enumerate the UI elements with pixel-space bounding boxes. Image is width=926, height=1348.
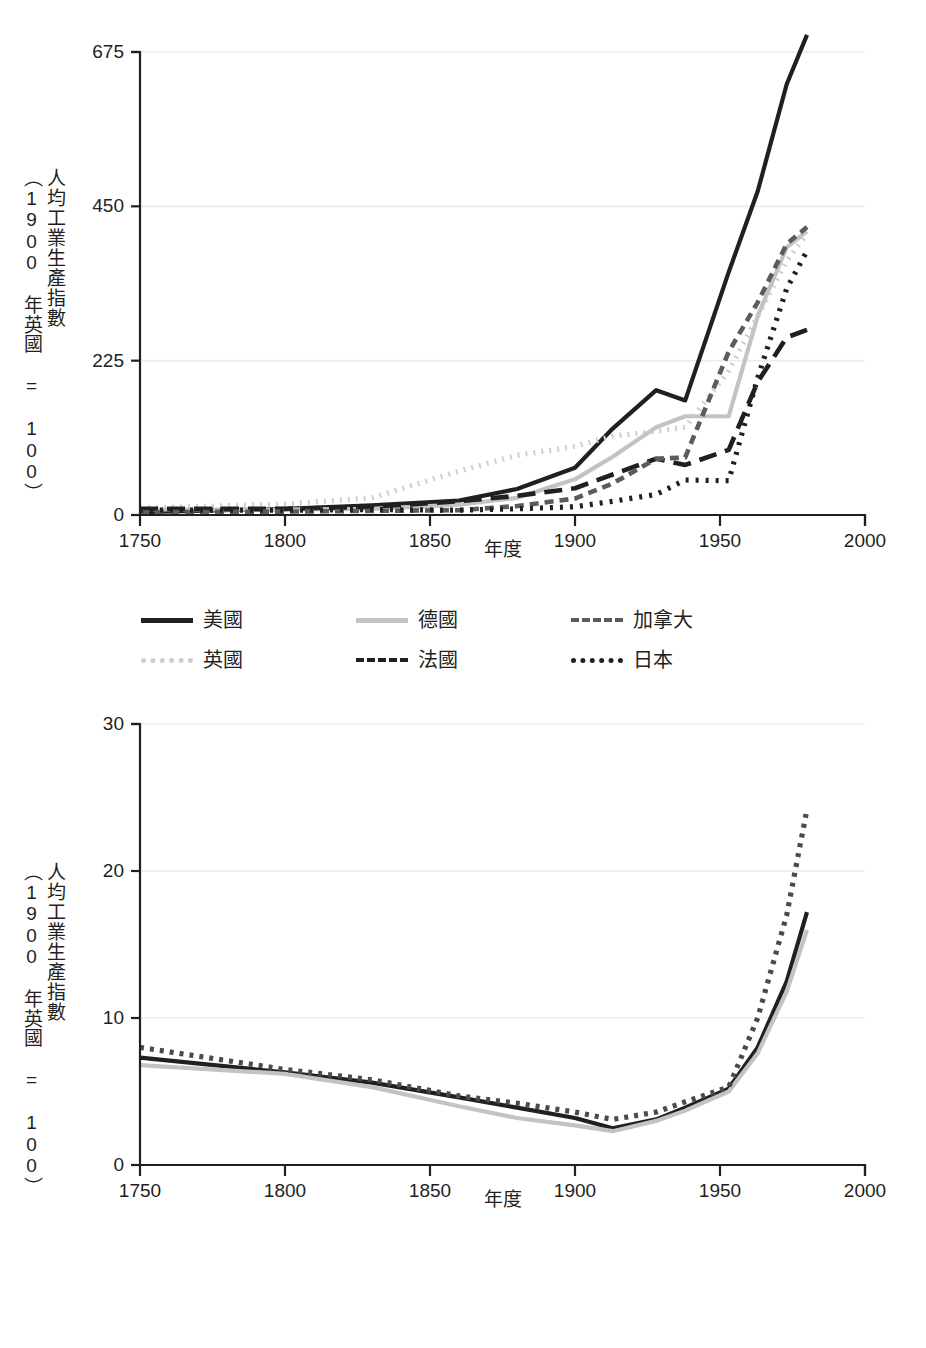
x-tick-label: 1950 xyxy=(699,530,741,551)
plot-area-bottom: 0102030175018001850190019502000年度 xyxy=(0,690,926,1270)
x-axis-title: 年度 xyxy=(484,539,522,560)
y-axis-title-main-top: 人均工業生產指數 xyxy=(45,168,64,328)
series-line xyxy=(140,234,807,508)
grid-lines-bottom xyxy=(140,724,865,1018)
legend-item[interactable]: 法國 xyxy=(356,640,571,680)
legend-item[interactable]: 美國 xyxy=(141,600,356,640)
legend-swatch-dotted-icon xyxy=(571,658,623,663)
x-tick-label: 2000 xyxy=(844,530,886,551)
y-tick-label: 20 xyxy=(103,860,124,881)
axes-bottom xyxy=(131,724,865,1176)
legend-swatch-solid-icon xyxy=(141,618,193,623)
x-tick-label: 1900 xyxy=(554,1180,596,1201)
x-tick-label: 2000 xyxy=(844,1180,886,1201)
plot-area-top: 0225450675175018001850190019502000年度 xyxy=(0,0,926,600)
legend-label: 德國 xyxy=(418,610,458,630)
y-tick-label: 10 xyxy=(103,1007,124,1028)
legend-item[interactable]: 日本 xyxy=(571,640,786,680)
y-axis-title-sub-bottom: （1900 年英國 = 100） xyxy=(22,862,41,1196)
y-tick-label: 0 xyxy=(113,504,124,525)
series-line xyxy=(140,251,807,510)
legend-swatch-dotted-icon xyxy=(141,658,193,663)
legend-item[interactable]: 德國 xyxy=(356,600,571,640)
y-axis-title-sub-top: （1900 年英國 = 100） xyxy=(22,168,41,502)
axis-labels-bottom: 0102030175018001850190019502000年度 xyxy=(103,713,886,1210)
x-tick-label: 1850 xyxy=(409,1180,451,1201)
axes-top xyxy=(131,52,865,526)
series-group-bottom xyxy=(140,809,807,1131)
y-tick-label: 0 xyxy=(113,1154,124,1175)
y-axis-title-bottom: 人均工業生產指數 （1900 年英國 = 100） xyxy=(22,862,64,1162)
y-tick-label: 30 xyxy=(103,713,124,734)
x-tick-label: 1900 xyxy=(554,530,596,551)
legend-label: 美國 xyxy=(203,610,243,630)
series-group-top xyxy=(140,35,807,512)
legend-item[interactable]: 加拿大 xyxy=(571,600,786,640)
x-tick-label: 1750 xyxy=(119,530,161,551)
series-line xyxy=(140,231,807,509)
legend-swatch-dashed-icon xyxy=(356,658,408,662)
legend-item[interactable]: 英國 xyxy=(141,640,356,680)
series-line xyxy=(140,912,807,1128)
y-tick-label: 675 xyxy=(92,41,124,62)
x-tick-label: 1800 xyxy=(264,1180,306,1201)
y-axis-title-top: 人均工業生產指數 （1900 年英國 = 100） xyxy=(22,168,64,468)
legend-label: 加拿大 xyxy=(633,610,693,630)
chart-industrial-output-developed: 人均工業生產指數 （1900 年英國 = 100） 02254506751750… xyxy=(0,0,926,690)
legend-label: 英國 xyxy=(203,650,243,670)
legend-label: 日本 xyxy=(633,650,673,670)
chart-industrial-output-developing: 人均工業生產指數 （1900 年英國 = 100） 01020301750180… xyxy=(0,690,926,1348)
x-tick-label: 1950 xyxy=(699,1180,741,1201)
series-line xyxy=(140,35,807,512)
x-axis-title: 年度 xyxy=(484,1189,522,1210)
legend-swatch-solid-icon xyxy=(356,618,408,623)
x-tick-label: 1800 xyxy=(264,530,306,551)
legend-label: 法國 xyxy=(418,650,458,670)
x-tick-label: 1850 xyxy=(409,530,451,551)
x-tick-label: 1750 xyxy=(119,1180,161,1201)
y-axis-title-main-bottom: 人均工業生產指數 xyxy=(45,862,64,1022)
legend-top: 美國德國加拿大英國法國日本 xyxy=(0,600,926,680)
y-tick-label: 450 xyxy=(92,195,124,216)
legend-swatch-dashed-icon xyxy=(571,618,623,622)
y-tick-label: 225 xyxy=(92,350,124,371)
